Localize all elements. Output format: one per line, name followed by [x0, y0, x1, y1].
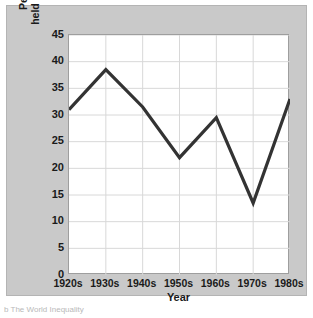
y-axis-title-line1: Percentage of national wealth [18, 0, 30, 56]
bottom-caption-fragment: b The World Inequality [4, 305, 234, 314]
y-axis-tick-label: 35 [42, 82, 64, 93]
x-axis-tick-label: 1980s [264, 277, 313, 290]
chart-card: 051015202530354045 1920s1930s1940s1950s1… [6, 5, 307, 296]
series-polyline [69, 70, 290, 203]
y-axis-tick-label: 5 [42, 242, 64, 253]
y-axis-tick-labels: 051015202530354045 [39, 34, 64, 274]
x-axis-title: Year [68, 291, 289, 303]
y-axis-title-line2: held by wealthiest 1% of Americans [30, 0, 42, 56]
y-axis-tick-label: 20 [42, 162, 64, 173]
y-axis-title: Percentage of national wealth held by we… [18, 0, 40, 56]
y-axis-tick-label: 25 [42, 135, 64, 146]
y-axis-tick-label: 15 [42, 189, 64, 200]
figure: 051015202530354045 1920s1930s1940s1950s1… [0, 0, 313, 318]
y-axis-tick-label: 10 [42, 215, 64, 226]
plot-area [68, 34, 289, 274]
y-axis-tick-label: 40 [42, 55, 64, 66]
y-axis-tick-label: 30 [42, 109, 64, 120]
y-axis-tick-label: 45 [42, 29, 64, 40]
data-line-series [69, 35, 290, 275]
